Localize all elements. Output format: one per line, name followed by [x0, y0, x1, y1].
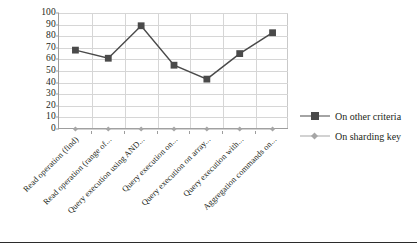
- x-tick-mark: [91, 131, 92, 134]
- data-point-marker[interactable]: [203, 76, 210, 83]
- data-point-marker[interactable]: [72, 47, 79, 54]
- x-tick-mark: [255, 131, 256, 134]
- legend-item-on-other-criteria[interactable]: On other criteria: [300, 106, 417, 126]
- legend-marker-square-icon: [300, 110, 330, 122]
- y-tick-label: 20: [10, 101, 56, 111]
- data-point-marker[interactable]: [171, 62, 178, 69]
- y-tick-label: 70: [10, 43, 56, 53]
- y-tick-label: 90: [10, 20, 56, 30]
- data-point-marker[interactable]: [269, 29, 276, 36]
- series-layer: [59, 13, 289, 129]
- chart-legend: On other criteria On sharding key: [300, 106, 417, 146]
- series-on-other-criteria: [72, 22, 276, 82]
- x-axis: Read operation (find)Read operation (ran…: [0, 131, 300, 246]
- y-tick-label: 60: [10, 55, 56, 65]
- legend-label: On other criteria: [335, 111, 401, 122]
- x-tick-mark: [157, 131, 158, 134]
- x-tick-mark: [222, 131, 223, 134]
- legend-marker-diamond-icon: [300, 130, 330, 142]
- y-axis: 1009080706050403020100: [6, 13, 56, 129]
- y-tick-label: 10: [10, 113, 56, 123]
- line-chart-figure: 1009080706050403020100 Read operation (f…: [0, 0, 417, 251]
- x-tick-mark: [189, 131, 190, 134]
- legend-item-on-sharding-key[interactable]: On sharding key: [300, 126, 417, 146]
- x-tick-mark: [124, 131, 125, 134]
- data-point-marker[interactable]: [236, 50, 243, 57]
- data-point-marker[interactable]: [138, 22, 145, 29]
- y-tick-label: 80: [10, 31, 56, 41]
- plot-area: [58, 13, 288, 129]
- y-tick-label: 100: [10, 8, 56, 18]
- legend-label: On sharding key: [335, 131, 401, 142]
- data-point-marker[interactable]: [105, 55, 112, 62]
- y-tick-label: 30: [10, 89, 56, 99]
- y-tick-label: 40: [10, 78, 56, 88]
- page-bottom-rule: [0, 242, 417, 243]
- y-tick-label: 50: [10, 66, 56, 76]
